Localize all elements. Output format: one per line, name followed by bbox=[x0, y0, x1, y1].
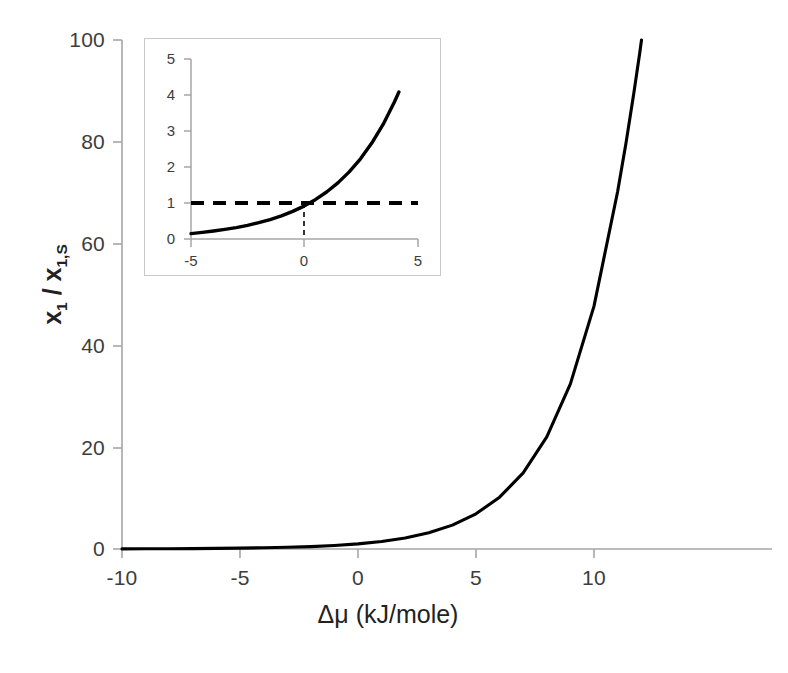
inset-y-tick-label-3: 3 bbox=[147, 122, 175, 139]
inset-curve-exponential bbox=[191, 92, 399, 234]
main-y-tick-label-20: 20 bbox=[20, 436, 105, 460]
y-axis-title: x1 / x1,S bbox=[38, 185, 71, 385]
inset-y-ticks bbox=[184, 59, 191, 239]
inset-y-tick-label-1: 1 bbox=[147, 194, 175, 211]
inset-y-tick-label-2: 2 bbox=[147, 158, 175, 175]
main-x-tick-label-5: 5 bbox=[436, 566, 516, 590]
main-y-tick-label-100: 100 bbox=[20, 28, 105, 52]
y-axis-title-sub-1s: 1,S bbox=[53, 244, 70, 267]
inset-plot-canvas bbox=[145, 39, 440, 275]
chart-figure: 100 80 60 40 20 0 -10 -5 0 5 10 x1 / x1,… bbox=[0, 0, 788, 673]
y-axis-title-divider: / x bbox=[38, 268, 66, 303]
main-x-tick-label-10: 10 bbox=[554, 566, 634, 590]
main-y-ticks bbox=[113, 40, 122, 549]
inset-plot-panel: 5 4 3 2 1 0 -5 0 5 bbox=[144, 38, 441, 276]
inset-x-ticks bbox=[191, 239, 418, 247]
y-axis-title-sub-1: 1 bbox=[53, 302, 70, 311]
inset-x-tick-label-0: 0 bbox=[284, 252, 324, 269]
inset-x-tick-label-5: 5 bbox=[398, 252, 438, 269]
inset-x-tick-label-neg5: -5 bbox=[171, 252, 211, 269]
main-y-tick-label-0: 0 bbox=[20, 537, 105, 561]
inset-y-tick-label-5: 5 bbox=[147, 50, 175, 67]
main-x-tick-label-neg5: -5 bbox=[200, 566, 280, 590]
main-x-tick-label-neg10: -10 bbox=[82, 566, 162, 590]
inset-y-tick-label-0: 0 bbox=[147, 230, 175, 247]
inset-y-tick-label-4: 4 bbox=[147, 86, 175, 103]
y-axis-title-x1: x bbox=[38, 311, 66, 325]
main-x-ticks bbox=[122, 549, 594, 558]
main-y-tick-label-80: 80 bbox=[20, 130, 105, 154]
x-axis-title: Δμ (kJ/mole) bbox=[238, 600, 538, 629]
main-x-tick-label-0: 0 bbox=[318, 566, 398, 590]
